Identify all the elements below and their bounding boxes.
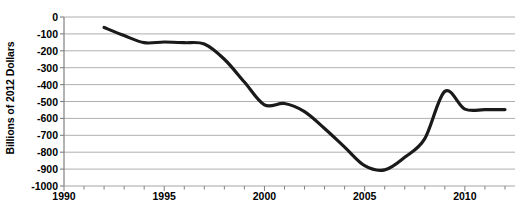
x-tick-label: 2000 [234,190,294,202]
data-line-trade-balance [104,27,505,170]
x-tick-label: 1990 [34,190,94,202]
data-series-group [104,27,505,170]
gridlines [64,17,515,186]
x-axis-tick-labels: 19901995200020052010 [0,188,521,212]
x-tick-label: 2005 [335,190,395,202]
x-tick-label: 2010 [435,190,495,202]
x-tick-label: 1995 [134,190,194,202]
chart-container: Billions of 2012 Dollars 0-100-200-300-4… [0,0,521,222]
